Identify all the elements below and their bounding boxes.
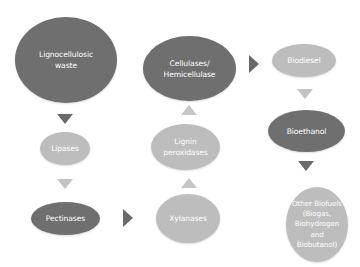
node-label: Pectinases: [46, 213, 85, 224]
arrow-right-icon: [123, 209, 133, 227]
node-lignocellulosic-waste: Lignocellulosic waste: [15, 17, 117, 103]
node-biodiesel: Biodiesel: [272, 44, 336, 77]
node-xylanases: Xylanases: [156, 194, 220, 243]
arrow-up-icon: [181, 105, 197, 115]
arrow-down-icon: [57, 114, 73, 124]
node-label: Cellulases/ Hemicellulase: [164, 58, 216, 80]
arrow-down-icon: [298, 161, 314, 171]
arrow-down-icon: [297, 89, 313, 99]
node-label: Xylanases: [169, 213, 207, 224]
node-label: Lipases: [51, 143, 79, 154]
node-pectinases: Pectinases: [31, 202, 100, 235]
arrow-down-icon: [57, 179, 73, 189]
arrow-right-icon: [249, 55, 259, 73]
arrow-up-icon: [181, 178, 197, 188]
node-lignin-peroxidases: Lignin peroxidases: [151, 124, 220, 170]
node-other-biofuels: Other Biofuels (Biogas, Biohydrogen and …: [286, 187, 348, 262]
node-label: Biodiesel: [287, 55, 320, 66]
node-bioethanol: Bioethanol: [268, 110, 345, 152]
node-label: Lignocellulosic waste: [39, 49, 93, 71]
node-lipases: Lipases: [40, 132, 90, 165]
node-label: Bioethanol: [287, 126, 327, 137]
node-cellulases-hemicellulase: Cellulases/ Hemicellulase: [143, 36, 236, 101]
node-label: Lignin peroxidases: [163, 136, 207, 158]
node-label: Other Biofuels (Biogas, Biohydrogen and …: [292, 199, 342, 249]
